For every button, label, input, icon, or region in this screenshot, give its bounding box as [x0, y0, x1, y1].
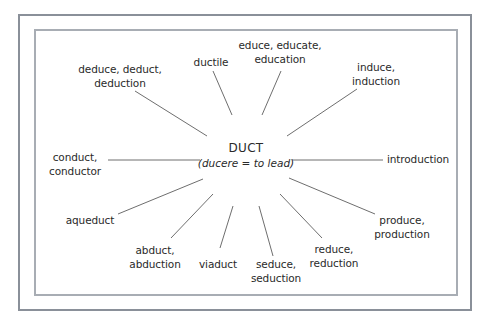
line-aqueduct [118, 179, 203, 214]
branch-introduction: introduction [387, 152, 449, 166]
branch-text: deduce, deduct, [78, 62, 162, 76]
branch-text: abduction [129, 257, 180, 271]
branch-text: produce, [374, 213, 429, 227]
line-production [289, 178, 375, 214]
center-title: DUCT [229, 141, 264, 155]
branch-text: viaduct [199, 257, 237, 271]
branch-conductor: conduct, conductor [49, 150, 101, 178]
line-abduction [171, 194, 213, 238]
branch-text: introduction [387, 152, 449, 166]
branch-text: reduction [310, 256, 359, 270]
branch-seduction: seduce, seduction [251, 257, 301, 285]
branch-text: reduce, [310, 242, 359, 256]
line-education [262, 71, 281, 115]
line-reduction [280, 194, 322, 238]
branch-text: education [238, 52, 321, 66]
branch-ductile: ductile [194, 55, 229, 69]
branch-production: produce, production [374, 213, 429, 241]
branch-viaduct: viaduct [199, 257, 237, 271]
branch-text: induce, [352, 60, 400, 74]
branch-induction: induce, induction [352, 60, 400, 88]
branch-text: conduct, [49, 150, 101, 164]
line-viaduct [220, 206, 233, 248]
branch-text: abduct, [129, 243, 180, 257]
branch-reduction: reduce, reduction [310, 242, 359, 270]
branch-text: production [374, 227, 429, 241]
branch-text: seduce, [251, 257, 301, 271]
branch-aqueduct: aqueduct [66, 213, 115, 227]
line-induction [287, 89, 357, 136]
branch-abduction: abduct, abduction [129, 243, 180, 271]
branch-text: aqueduct [66, 213, 115, 227]
branch-text: ductile [194, 55, 229, 69]
branch-deduction: deduce, deduct, deduction [78, 62, 162, 90]
center-subtitle: (ducere = to lead) [198, 157, 294, 169]
branch-education: educe, educate, education [238, 38, 321, 66]
branch-text: conductor [49, 164, 101, 178]
branch-text: educe, educate, [238, 38, 321, 52]
branch-text: seduction [251, 271, 301, 285]
branch-text: deduction [78, 76, 162, 90]
line-seduction [259, 206, 273, 256]
line-ductile [213, 71, 232, 115]
line-deduction [135, 91, 207, 136]
branch-text: induction [352, 74, 400, 88]
